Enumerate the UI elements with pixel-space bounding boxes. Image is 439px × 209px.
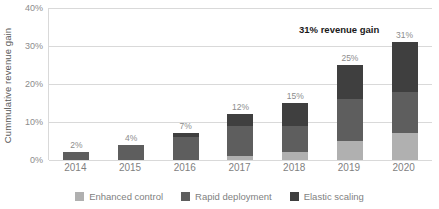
- bar-value-label: 4%: [125, 133, 137, 143]
- x-axis-tick-label: 2016: [174, 162, 196, 173]
- x-axis-tick-label: 2019: [338, 162, 360, 173]
- y-axis-title: Cummulative revenue gain: [0, 0, 16, 170]
- bar-segment[interactable]: [337, 99, 363, 141]
- legend-item[interactable]: Elastic scaling: [290, 191, 364, 202]
- bar-segment[interactable]: [227, 156, 253, 160]
- y-axis-tick-label: 0%: [30, 155, 43, 165]
- bar-value-label: 12%: [232, 102, 249, 112]
- stacked-bar-chart: Cummulative revenue gain 0%10%20%30%40% …: [0, 0, 439, 209]
- x-axis-tick-label: 2020: [393, 162, 415, 173]
- legend-swatch-icon: [75, 192, 84, 201]
- bar-stack[interactable]: [227, 114, 253, 160]
- bar-stack[interactable]: [173, 133, 199, 160]
- bar-segment[interactable]: [282, 152, 308, 160]
- bar-value-label: 15%: [287, 91, 304, 101]
- bar-segment[interactable]: [337, 141, 363, 160]
- gridline: [49, 160, 432, 161]
- bar-segment[interactable]: [118, 145, 144, 160]
- y-axis-tick-label: 40%: [25, 3, 43, 13]
- legend-swatch-icon: [181, 192, 190, 201]
- y-axis-tick-label: 10%: [25, 117, 43, 127]
- bar-group[interactable]: 31%: [377, 8, 432, 160]
- bar-stack[interactable]: [282, 103, 308, 160]
- bar-value-label: 7%: [180, 121, 192, 131]
- x-axis-tick-labels: 2014201520162017201820192020: [48, 162, 431, 178]
- x-axis-tick-label: 2018: [283, 162, 305, 173]
- chart-legend: Enhanced controlRapid deploymentElastic …: [0, 188, 439, 204]
- bar-stack[interactable]: [337, 65, 363, 160]
- bar-stack[interactable]: [118, 145, 144, 160]
- bar-segment[interactable]: [227, 114, 253, 125]
- legend-swatch-icon: [290, 192, 299, 201]
- bar-segment[interactable]: [337, 65, 363, 99]
- legend-item[interactable]: Enhanced control: [75, 191, 163, 202]
- bar-segment[interactable]: [282, 126, 308, 153]
- bar-value-label: 31%: [396, 30, 413, 40]
- bar-value-label: 2%: [70, 140, 82, 150]
- bar-stack[interactable]: [63, 152, 89, 160]
- legend-item-label: Enhanced control: [89, 191, 163, 202]
- bar-segment[interactable]: [173, 137, 199, 160]
- legend-item-label: Rapid deployment: [195, 191, 272, 202]
- bar-stack[interactable]: [392, 42, 418, 160]
- bar-group[interactable]: 4%: [104, 8, 159, 160]
- bar-group[interactable]: 12%: [213, 8, 268, 160]
- bar-segment[interactable]: [63, 152, 89, 160]
- y-axis-tick-label: 20%: [25, 79, 43, 89]
- bar-group[interactable]: 2%: [49, 8, 104, 160]
- x-axis-tick-label: 2014: [64, 162, 86, 173]
- bar-group[interactable]: 7%: [158, 8, 213, 160]
- x-axis-tick-label: 2015: [119, 162, 141, 173]
- y-axis-tick-labels: 0%10%20%30%40%: [16, 8, 46, 160]
- legend-item-label: Elastic scaling: [304, 191, 364, 202]
- x-axis-tick-label: 2017: [228, 162, 250, 173]
- legend-item[interactable]: Rapid deployment: [181, 191, 272, 202]
- bar-value-label: 25%: [341, 53, 358, 63]
- y-axis-tick-label: 30%: [25, 41, 43, 51]
- bar-segment[interactable]: [392, 92, 418, 134]
- bar-segment[interactable]: [227, 126, 253, 156]
- bar-segment[interactable]: [282, 103, 308, 126]
- y-axis-title-text: Cummulative revenue gain: [3, 27, 14, 142]
- revenue-gain-annotation: 31% revenue gain: [299, 24, 379, 35]
- bar-segment[interactable]: [392, 133, 418, 160]
- bar-segment[interactable]: [392, 42, 418, 91]
